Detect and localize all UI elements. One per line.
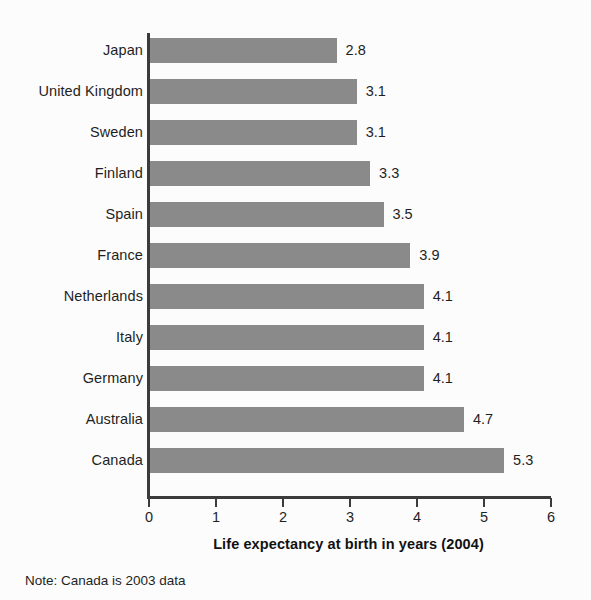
bar: [149, 448, 504, 473]
x-axis-tick: [282, 498, 284, 507]
bar: [149, 161, 370, 186]
bar-value-label: 3.3: [379, 161, 399, 186]
bar: [149, 325, 424, 350]
category-label: Sweden: [0, 120, 143, 145]
x-axis-tick: [148, 498, 150, 507]
x-axis-title-text: Life expectancy at birth in years (2004): [213, 536, 484, 552]
category-label: Finland: [0, 161, 143, 186]
category-label: Spain: [0, 202, 143, 227]
bar-value-label: 3.1: [366, 79, 386, 104]
x-axis-tick-label: 0: [134, 509, 164, 525]
x-axis-tick-label: 1: [201, 509, 231, 525]
x-axis-tick-label: 2: [268, 509, 298, 525]
bar-row: Spain3.5: [0, 202, 591, 243]
y-axis-line: [147, 33, 150, 497]
category-label: Canada: [0, 448, 143, 473]
x-axis-tick: [483, 498, 485, 507]
bar-value-label: 2.8: [346, 38, 366, 63]
bar-value-label: 3.5: [393, 202, 413, 227]
bar: [149, 120, 357, 145]
chart-note: Note: Canada is 2003 data: [25, 573, 186, 588]
bar-value-label: 4.7: [473, 407, 493, 432]
x-axis-tick-label: 4: [402, 509, 432, 525]
bar-chart-figure: Japan2.8United Kingdom3.1Sweden3.1Finlan…: [0, 0, 591, 600]
category-label: United Kingdom: [0, 79, 143, 104]
category-label: Japan: [0, 38, 143, 63]
bar: [149, 407, 464, 432]
bar-row: Sweden3.1: [0, 120, 591, 161]
bar-row: France3.9: [0, 243, 591, 284]
bar-row: Japan2.8: [0, 38, 591, 79]
x-axis-tick: [215, 498, 217, 507]
bar-row: Germany4.1: [0, 366, 591, 407]
category-label: Germany: [0, 366, 143, 391]
x-axis-tick: [349, 498, 351, 507]
x-axis-tick: [416, 498, 418, 507]
category-label: France: [0, 243, 143, 268]
bar: [149, 79, 357, 104]
bar-value-label: 3.1: [366, 120, 386, 145]
bar: [149, 366, 424, 391]
x-axis-title: Life expectancy at birth in years (2004): [0, 536, 591, 552]
bar: [149, 284, 424, 309]
bar-row: Australia4.7: [0, 407, 591, 448]
bar-value-label: 4.1: [433, 284, 453, 309]
x-axis-tick-label: 6: [536, 509, 566, 525]
x-axis-tick: [550, 498, 552, 507]
category-label: Australia: [0, 407, 143, 432]
x-axis-tick-label: 3: [335, 509, 365, 525]
plot-area: Japan2.8United Kingdom3.1Sweden3.1Finlan…: [0, 0, 591, 500]
bar: [149, 243, 410, 268]
bar-value-label: 3.9: [419, 243, 439, 268]
bar-value-label: 4.1: [433, 325, 453, 350]
x-axis-tick-label: 5: [469, 509, 499, 525]
bar-row: Canada5.3: [0, 448, 591, 489]
category-label: Netherlands: [0, 284, 143, 309]
bar: [149, 38, 337, 63]
bar-value-label: 4.1: [433, 366, 453, 391]
bar-row: Italy4.1: [0, 325, 591, 366]
bar: [149, 202, 384, 227]
bar-row: Finland3.3: [0, 161, 591, 202]
bar-row: United Kingdom3.1: [0, 79, 591, 120]
bar-row: Netherlands4.1: [0, 284, 591, 325]
bar-value-label: 5.3: [513, 448, 533, 473]
category-label: Italy: [0, 325, 143, 350]
